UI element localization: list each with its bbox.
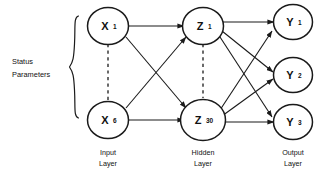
node-y1: Y 1 bbox=[274, 5, 313, 40]
node-x1: X 1 bbox=[88, 8, 129, 45]
node-x6-subscript: 6 bbox=[113, 117, 117, 124]
edges-hidden-to-output bbox=[220, 22, 274, 122]
layer-caption-output: Output Layer bbox=[282, 148, 304, 168]
neural-network-diagram: Status Parameters X 1 X bbox=[0, 0, 324, 179]
edge-z1-y3 bbox=[220, 37, 272, 117]
node-z1-subscript: 1 bbox=[208, 23, 212, 30]
node-z1: Z 1 bbox=[183, 8, 224, 45]
node-z30-label: Z bbox=[195, 114, 202, 126]
node-z1-label: Z bbox=[197, 20, 204, 32]
node-y1-subscript: 1 bbox=[298, 19, 302, 26]
curly-brace-icon bbox=[70, 16, 79, 118]
node-z30: Z 30 bbox=[181, 100, 226, 141]
node-y2-label: Y bbox=[286, 69, 294, 81]
status-parameters-label-line2: Parameters bbox=[12, 70, 51, 79]
node-x1-label: X bbox=[101, 20, 109, 32]
node-z30-circle bbox=[181, 100, 226, 141]
node-y3-subscript: 3 bbox=[298, 119, 302, 126]
edges-input-to-hidden bbox=[126, 26, 186, 120]
edge-z30-y2 bbox=[222, 79, 273, 116]
status-parameters-label-line1: Status bbox=[12, 57, 33, 66]
node-x6: X 6 bbox=[88, 102, 129, 139]
node-z30-subscript: 30 bbox=[206, 117, 214, 124]
node-y2: Y 2 bbox=[274, 58, 313, 93]
node-y1-label: Y bbox=[286, 16, 294, 28]
node-x1-subscript: 1 bbox=[113, 23, 117, 30]
node-x6-label: X bbox=[101, 114, 109, 126]
output-layer-caption-line2: Layer bbox=[284, 159, 303, 168]
input-layer-caption-line2: Layer bbox=[99, 159, 118, 168]
status-parameters-brace-group bbox=[70, 16, 79, 118]
node-y3: Y 3 bbox=[274, 105, 313, 140]
diagram-canvas: Status Parameters X 1 X bbox=[0, 0, 324, 179]
layer-caption-input: Input Layer bbox=[99, 148, 118, 168]
node-y2-subscript: 2 bbox=[298, 72, 302, 79]
node-y3-label: Y bbox=[286, 116, 294, 128]
layer-caption-hidden: Hidden Layer bbox=[192, 148, 215, 168]
hidden-layer-caption-line1: Hidden bbox=[192, 148, 215, 157]
input-layer-caption-line1: Input bbox=[100, 148, 116, 157]
hidden-layer-caption-line2: Layer bbox=[194, 159, 213, 168]
output-layer-caption-line1: Output bbox=[282, 148, 304, 157]
